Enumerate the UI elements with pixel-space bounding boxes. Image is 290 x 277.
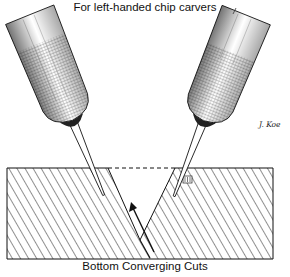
- wood-block: [7, 168, 273, 259]
- artist-signature: J. Koe: [259, 120, 281, 129]
- grain-mark: [183, 176, 192, 183]
- illustration: [0, 0, 290, 277]
- caption: Bottom Converging Cuts: [0, 260, 290, 272]
